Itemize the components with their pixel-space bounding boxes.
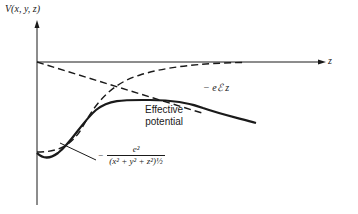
z-axis-arrow-icon [318, 60, 326, 65]
z-axis-label: z [328, 56, 332, 66]
coulomb-leader-line [60, 143, 96, 160]
coulomb-term-label: − e² (x² + y² + z²)½ [98, 145, 165, 166]
y-axis-arrow-icon [35, 20, 40, 28]
effective-potential-label: Effective potential [145, 104, 183, 128]
y-axis-label: V(x, y, z) [5, 4, 40, 14]
coulomb-fraction: e² (x² + y² + z²)½ [107, 145, 164, 166]
coulomb-potential-curve [37, 63, 245, 153]
field-term-label: − eℰ z [203, 83, 229, 93]
